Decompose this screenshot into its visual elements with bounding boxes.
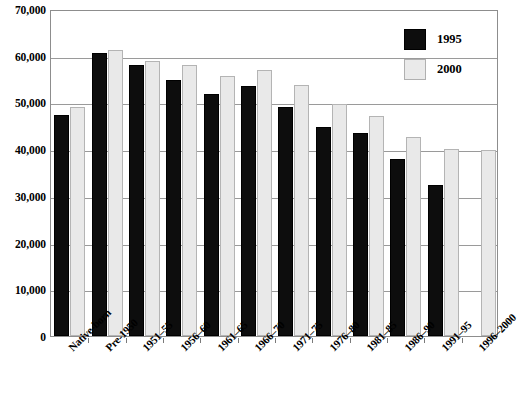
bar-2000-1961–65	[220, 76, 235, 336]
bar-2000-1981–85	[369, 116, 384, 336]
bar-2000-1976–80	[332, 104, 347, 336]
y-tick-label: 40,000	[0, 145, 46, 156]
bar-1995-1976–80	[316, 127, 331, 336]
bar-2000-Pre-1950	[108, 50, 123, 336]
y-tick-label: 60,000	[0, 52, 46, 63]
bar-1995-1966–70	[241, 86, 256, 336]
bar-2000-1956–60	[182, 65, 197, 336]
legend: 1995 2000	[404, 26, 500, 86]
bar-2000-Native-born	[70, 107, 85, 336]
bar-2000-1951–55	[145, 61, 160, 336]
bar-1995-1981–85	[353, 133, 368, 336]
legend-label: 2000	[437, 62, 462, 77]
y-axis: 010,00020,00030,00040,00050,00060,00070,…	[0, 0, 46, 409]
bar-1995-1971–75	[278, 107, 293, 336]
bar-2000-1991–95	[444, 149, 459, 336]
bar-1995-1951–55	[129, 65, 144, 336]
y-tick-label: 30,000	[0, 192, 46, 203]
bar-1995-1956–60	[166, 80, 181, 336]
legend-item-2000: 2000	[404, 56, 500, 82]
bar-1995-1991–95	[428, 185, 443, 336]
y-tick-label: 0	[0, 332, 46, 343]
y-tick-label: 20,000	[0, 239, 46, 250]
y-tick-label: 50,000	[0, 98, 46, 109]
legend-label: 1995	[437, 32, 462, 47]
bar-1995-Native-born	[54, 115, 69, 336]
bar-2000-1996–2000	[481, 150, 496, 336]
light-square-icon	[404, 59, 426, 80]
bar-1995-1986–90	[390, 159, 405, 337]
bar-2000-1986–90	[406, 137, 421, 336]
y-tick-label: 10,000	[0, 285, 46, 296]
bar-2000-1966–70	[257, 70, 272, 336]
y-tick-label: 70,000	[0, 5, 46, 16]
black-square-icon	[404, 29, 426, 50]
legend-item-1995: 1995	[404, 26, 500, 52]
bar-1995-Pre-1950	[92, 53, 107, 336]
bar-1995-1961–65	[204, 94, 219, 336]
bar-2000-1971–75	[294, 85, 309, 336]
